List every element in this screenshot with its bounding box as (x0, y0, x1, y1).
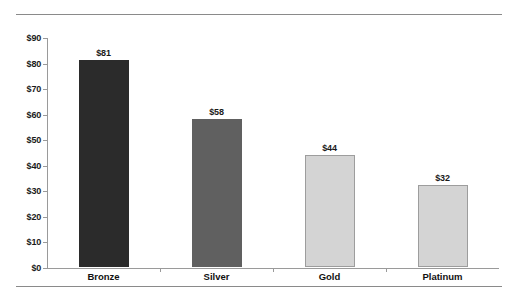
bottom-divider-rule (16, 286, 502, 287)
bar-value-label-silver: $58 (177, 108, 257, 117)
bar-platinum[interactable] (418, 185, 468, 267)
plot-area (47, 38, 499, 268)
bar-silver[interactable] (192, 119, 242, 267)
bar-chart-figure: $0$10$20$30$40$50$60$70$80$90 $81Bronze$… (0, 0, 518, 297)
y-axis-tick-label: $70 (7, 85, 41, 94)
y-axis-tick-label: $60 (7, 110, 41, 119)
y-axis-labels: $0$10$20$30$40$50$60$70$80$90 (0, 38, 41, 269)
x-axis-category-label-silver: Silver (160, 272, 273, 282)
y-axis-line (47, 38, 48, 269)
bar-gold[interactable] (305, 155, 355, 267)
bar-bronze[interactable] (79, 60, 129, 267)
top-divider-rule (16, 14, 502, 15)
bar-value-label-gold: $44 (290, 144, 370, 153)
y-axis-tick (43, 89, 47, 90)
y-axis-tick-label: $30 (7, 187, 41, 196)
y-axis-tick (43, 166, 47, 167)
y-axis-tick-label: $90 (7, 34, 41, 43)
y-axis-tick (43, 115, 47, 116)
y-axis-tick-label: $20 (7, 212, 41, 221)
y-axis-tick-label: $50 (7, 136, 41, 145)
x-axis-category-label-bronze: Bronze (47, 272, 160, 282)
y-axis-tick-label: $80 (7, 59, 41, 68)
y-axis-tick (43, 217, 47, 218)
x-axis-category-label-platinum: Platinum (386, 272, 499, 282)
y-axis-tick (43, 242, 47, 243)
y-axis-tick (43, 268, 47, 269)
bar-value-label-bronze: $81 (64, 49, 144, 58)
y-axis-tick (43, 140, 47, 141)
y-axis-tick (43, 191, 47, 192)
y-axis-tick (43, 64, 47, 65)
x-axis-category-label-gold: Gold (273, 272, 386, 282)
y-axis-tick-label: $0 (7, 264, 41, 273)
bar-value-label-platinum: $32 (403, 174, 483, 183)
y-axis-tick-label: $40 (7, 161, 41, 170)
y-axis-tick (43, 38, 47, 39)
y-axis-tick-label: $10 (7, 238, 41, 247)
